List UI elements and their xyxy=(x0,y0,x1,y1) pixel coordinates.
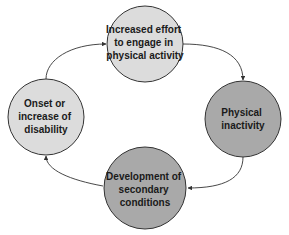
node-label-line: to engage in xyxy=(114,37,173,48)
node-label-line: Development of xyxy=(106,171,182,182)
svg-text:Onset or increase of: Onset or increase of disability xyxy=(18,98,74,135)
node-label-line: inactivity xyxy=(221,120,265,131)
node-circle xyxy=(205,81,281,157)
node-label-line: conditions xyxy=(120,197,171,208)
node-increased-effort: Increased effort to engage in physical a… xyxy=(106,6,184,82)
node-label-line: disability xyxy=(24,124,68,135)
node-secondary-conditions: Development of secondary conditions xyxy=(104,147,186,229)
node-label-line: increase of xyxy=(18,111,71,122)
arrow-effort-to-inactivity xyxy=(183,44,243,80)
arrow-disability-to-effort xyxy=(46,44,106,79)
node-physical-inactivity: Physical inactivity xyxy=(205,81,281,157)
cycle-diagram: Increased effort to engage in physical a… xyxy=(0,0,289,235)
svg-text:Increased effort to enga: Increased effort to engage in physical a… xyxy=(106,24,184,61)
arrow-inactivity-to-secondary xyxy=(188,157,243,188)
node-label-line: Increased effort xyxy=(106,24,182,35)
node-onset-disability: Onset or increase of disability xyxy=(8,79,84,155)
arrow-secondary-to-disability xyxy=(46,156,103,186)
node-label-line: physical activity xyxy=(106,50,184,61)
node-label-line: secondary xyxy=(119,184,169,195)
node-label-line: Physical xyxy=(221,107,262,118)
node-label-line: Onset or xyxy=(24,98,65,109)
